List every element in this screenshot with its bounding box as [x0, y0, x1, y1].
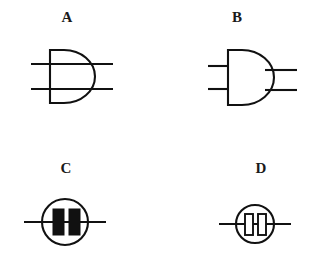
symbol-c-group [24, 199, 106, 245]
symbol-a-group [31, 50, 113, 103]
symbol-c-bar-left [53, 209, 64, 235]
symbol-d-bar-left [245, 214, 253, 235]
symbol-c-bar-right [69, 209, 80, 235]
symbol-b-d-body [228, 50, 274, 105]
figure-panel-root: A B C D [0, 0, 314, 268]
symbol-b-group [208, 50, 297, 105]
symbol-d-group [219, 205, 291, 243]
symbol-a-d-body [50, 50, 95, 103]
figure-drawing-canvas [0, 0, 314, 268]
symbol-d-bar-right [258, 214, 266, 235]
